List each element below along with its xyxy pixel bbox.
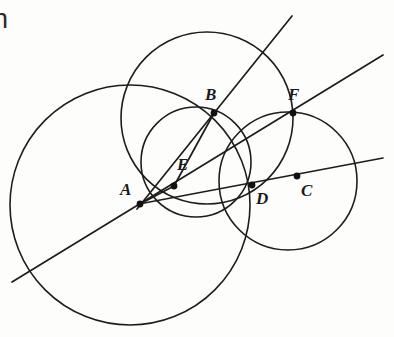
circle-B-middle [121,32,293,204]
rays-group [12,16,383,282]
point-dot-a [137,201,144,208]
chord-E-to-B [174,113,214,186]
point-label-d: D [256,190,268,207]
point-dot-b [211,110,218,117]
point-dot-d [249,182,256,189]
circle-A-large [10,85,250,325]
circles-group [10,32,357,325]
point-dot-e [171,183,178,190]
point-dot-c [294,173,301,180]
point-label-f: F [288,86,299,103]
geometry-figure: n ABCDEF [0,0,394,337]
circle-C-right [219,112,357,250]
point-dot-f [290,110,297,117]
point-label-c: C [301,182,312,199]
point-label-b: B [205,86,216,103]
point-label-e: E [177,156,188,173]
point-label-a: A [120,181,131,198]
geometry-canvas [0,0,394,337]
